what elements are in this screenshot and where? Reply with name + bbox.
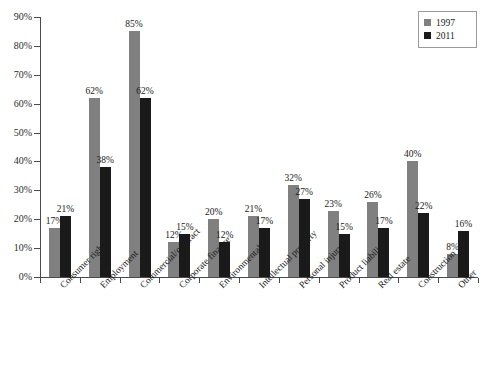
bar-value-label: 85% xyxy=(119,19,149,29)
legend-label-1997: 1997 xyxy=(436,18,455,28)
bar-2011 xyxy=(100,167,111,277)
legend-item-2011: 2011 xyxy=(424,29,471,42)
bar-value-label: 32% xyxy=(278,173,308,183)
bar-1997 xyxy=(129,31,140,277)
bar-value-label: 23% xyxy=(318,199,348,209)
plot-area: 17%21%62%38%85%62%12%15%20%12%21%17%32%2… xyxy=(40,17,478,277)
x-axis-separator-tick xyxy=(40,278,41,283)
bar-value-label: 27% xyxy=(289,187,319,197)
y-axis-tick-label: 10% xyxy=(0,243,32,253)
y-axis-tick-label: 0% xyxy=(0,272,32,282)
bar-value-label: 21% xyxy=(50,204,80,214)
bar-value-label: 40% xyxy=(398,149,428,159)
x-axis-separator-tick xyxy=(478,278,479,283)
bar-value-label: 16% xyxy=(449,219,479,229)
bar-value-label: 26% xyxy=(358,190,388,200)
bar-value-label: 17% xyxy=(369,216,399,226)
bar-value-label: 62% xyxy=(79,86,109,96)
bar-2011 xyxy=(140,98,151,277)
bar-value-label: 38% xyxy=(90,155,120,165)
y-axis-tick-label: 70% xyxy=(0,70,32,80)
bar-1997 xyxy=(49,228,60,277)
bar-value-label: 20% xyxy=(199,207,229,217)
x-axis-separator-tick xyxy=(159,278,160,283)
legend-swatch-2011-icon xyxy=(424,32,431,39)
x-axis-separator-tick xyxy=(319,278,320,283)
y-axis-tick-label: 50% xyxy=(0,128,32,138)
y-axis-tick-label: 90% xyxy=(0,12,32,22)
bar-value-label: 21% xyxy=(239,204,269,214)
y-axis-tick-label: 80% xyxy=(0,41,32,51)
x-axis-separator-tick xyxy=(80,278,81,283)
legend: 1997 2011 xyxy=(418,11,477,48)
legend-swatch-1997-icon xyxy=(424,19,431,26)
x-axis-separator-tick xyxy=(438,278,439,283)
y-axis-tick-label: 40% xyxy=(0,156,32,166)
legend-item-1997: 1997 xyxy=(424,16,471,29)
x-axis-separator-tick xyxy=(279,278,280,283)
x-axis-separator-tick xyxy=(359,278,360,283)
bar-value-label: 22% xyxy=(409,201,439,211)
bar-2011 xyxy=(60,216,71,277)
x-axis-separator-tick xyxy=(199,278,200,283)
bar-value-label: 15% xyxy=(329,222,359,232)
y-axis-tick-label: 30% xyxy=(0,185,32,195)
legend-label-2011: 2011 xyxy=(436,31,455,41)
y-axis-tick-label: 60% xyxy=(0,99,32,109)
bar-chart: 0%10%20%30%40%50%60%70%80%90% 17%21%62%3… xyxy=(0,0,485,371)
bar-2011 xyxy=(418,213,429,277)
x-axis-separator-tick xyxy=(398,278,399,283)
x-axis-separator-tick xyxy=(120,278,121,283)
x-axis-separator-tick xyxy=(239,278,240,283)
bar-value-label: 17% xyxy=(250,216,280,226)
y-axis-tick-label: 20% xyxy=(0,214,32,224)
bar-value-label: 62% xyxy=(130,86,160,96)
